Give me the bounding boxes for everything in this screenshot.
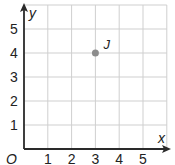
- x-tick-label: 5: [139, 151, 147, 165]
- y-axis-label: y: [28, 5, 37, 21]
- x-tick-label: 1: [44, 151, 52, 165]
- point-label: J: [102, 37, 110, 52]
- y-tick-label: 5: [10, 21, 18, 37]
- y-tick-label: 3: [10, 69, 18, 85]
- point-marker: [92, 50, 99, 57]
- grid-lines: [24, 5, 167, 149]
- data-points: J: [92, 37, 111, 57]
- x-tick-label: 4: [115, 151, 123, 165]
- coordinate-plane: 1234512345 J x y O: [0, 0, 175, 165]
- x-tick-label: 2: [68, 151, 76, 165]
- y-tick-label: 1: [10, 117, 18, 133]
- tick-labels: 1234512345: [10, 21, 147, 165]
- x-axis-label: x: [157, 130, 166, 146]
- x-tick-label: 3: [92, 151, 100, 165]
- y-tick-label: 4: [10, 45, 18, 61]
- y-tick-label: 2: [10, 93, 18, 109]
- origin-label: O: [6, 151, 17, 165]
